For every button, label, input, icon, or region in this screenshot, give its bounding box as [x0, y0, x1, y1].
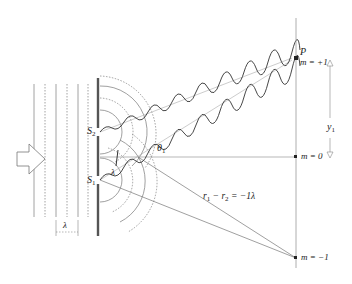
- label-lambda-path: λ: [111, 168, 115, 177]
- label-path-difference: r1 − r2 = −1λ: [203, 192, 255, 203]
- label-m-minus-1: m = −1: [301, 253, 329, 262]
- wavelength-marker: [56, 220, 78, 236]
- rays-to-m-minus-1: [100, 157, 296, 258]
- down-arrow-icon: [327, 152, 333, 158]
- wavy-rays-to-p: [100, 39, 300, 180]
- label-m-0: m = 0: [301, 152, 323, 161]
- label-theta1: θ1: [157, 143, 165, 155]
- up-arrow-icon: [327, 60, 333, 66]
- label-p: P: [300, 47, 306, 57]
- point-p: [294, 56, 298, 60]
- point-m-minus-1: [294, 256, 297, 259]
- label-y1: y1: [327, 122, 335, 134]
- double-slit-diagram: [0, 0, 352, 284]
- incident-wavefronts: [34, 84, 88, 217]
- point-m0: [294, 155, 297, 158]
- label-lambda-incident: λ: [63, 221, 67, 230]
- label-s1: S1: [87, 175, 96, 187]
- incident-arrow-icon: [17, 144, 45, 174]
- y1-dimension: [327, 60, 333, 158]
- label-m-plus-1: m = +1: [300, 58, 328, 67]
- label-s2: S2: [87, 126, 96, 138]
